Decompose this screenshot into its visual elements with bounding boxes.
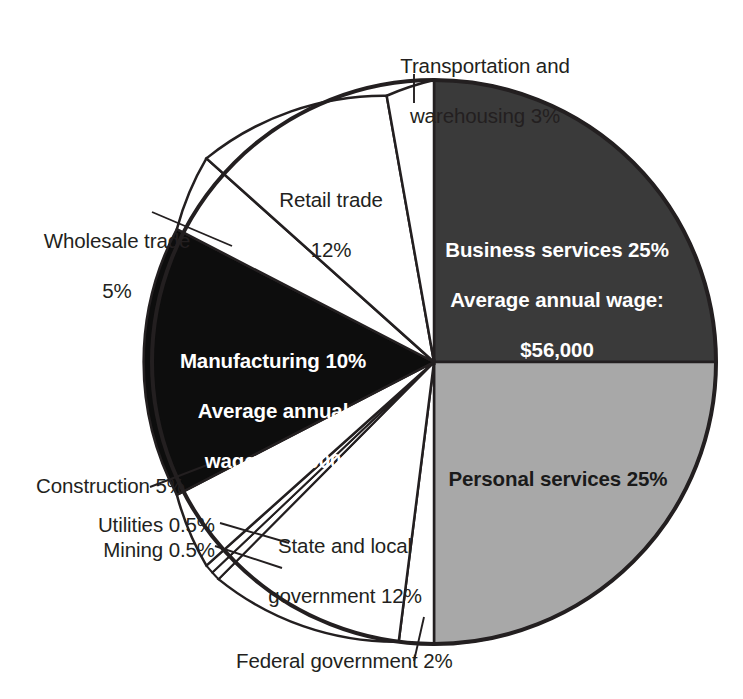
label-retail-line2: 12%	[311, 238, 352, 261]
label-state-local-line1: State and local	[278, 534, 412, 557]
label-construction: Construction 5%	[36, 473, 266, 498]
label-business-services: Business services 25% Average annual wag…	[440, 212, 674, 362]
label-business-line2: Average annual wage:	[450, 288, 664, 311]
slice-personal-services[interactable]	[434, 362, 716, 644]
label-state-local-line2: government 12%	[268, 584, 422, 607]
label-transportation-line1: Transportation and	[400, 54, 570, 77]
label-transportation-warehousing: Transportation and warehousing 3%	[378, 28, 592, 128]
label-retail-line1: Retail trade	[279, 188, 383, 211]
label-business-line3: $56,000	[520, 338, 593, 361]
pie-chart: Transportation and warehousing 3% Wholes…	[0, 0, 743, 699]
label-business-line1: Business services 25%	[445, 238, 669, 261]
label-federal-government: Federal government 2%	[236, 648, 556, 673]
label-retail-trade: Retail trade 12%	[256, 162, 406, 262]
label-wholesale-line1: Wholesale trade	[44, 229, 191, 252]
label-wholesale-line2: 5%	[102, 279, 131, 302]
label-transportation-line2: warehousing 3%	[410, 104, 560, 127]
label-utilities: Utilities 0.5%	[30, 512, 215, 537]
label-wholesale-trade: Wholesale trade 5%	[32, 203, 202, 303]
label-state-local-government: State and local government 12%	[255, 508, 435, 608]
label-manufacturing-line3: wage: $46,000	[205, 449, 342, 472]
label-personal-services: Personal services 25%	[443, 466, 673, 491]
label-mining: Mining 0.5%	[30, 537, 215, 562]
label-manufacturing: Manufacturing 10% Average annual wage: $…	[168, 323, 378, 473]
label-manufacturing-line1: Manufacturing 10%	[180, 349, 366, 372]
label-manufacturing-line2: Average annual	[198, 399, 349, 422]
